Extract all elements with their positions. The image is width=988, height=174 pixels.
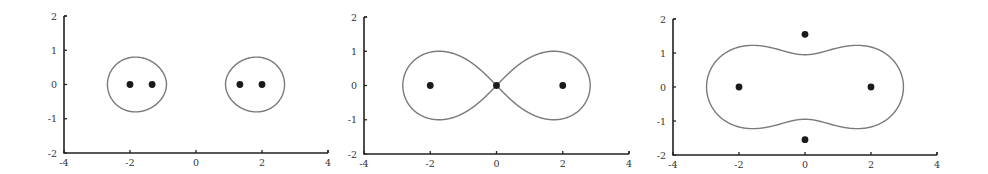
x-tick-label: 4 bbox=[934, 159, 940, 170]
x-tick-label: -2 bbox=[734, 159, 743, 170]
level-curve bbox=[107, 57, 284, 112]
y-tick-label: -1 bbox=[348, 114, 357, 125]
marker-point bbox=[559, 82, 566, 89]
x-tick-label: 0 bbox=[802, 159, 808, 170]
y-tick-label: 0 bbox=[660, 82, 666, 93]
x-tick-label: -4 bbox=[59, 157, 68, 168]
x-tick-label: 2 bbox=[560, 158, 566, 169]
x-tick-label: 0 bbox=[193, 157, 199, 168]
y-tick-label: 1 bbox=[660, 48, 666, 59]
marker-point bbox=[259, 81, 266, 88]
y-tick-label: 2 bbox=[660, 14, 666, 25]
axes-lines bbox=[673, 19, 937, 155]
y-tick-label: -2 bbox=[48, 148, 57, 159]
y-tick-label: -2 bbox=[348, 149, 357, 160]
marker-point bbox=[802, 136, 809, 143]
marker-point bbox=[236, 81, 243, 88]
marker-point bbox=[802, 31, 809, 38]
y-tick-label: 2 bbox=[51, 11, 57, 22]
marker-point bbox=[493, 82, 500, 89]
x-tick-label: 0 bbox=[493, 158, 499, 169]
axes-lines bbox=[64, 16, 328, 153]
x-tick-label: 4 bbox=[325, 157, 331, 168]
y-tick-label: 1 bbox=[51, 45, 57, 56]
x-tick-label: -4 bbox=[668, 159, 677, 170]
y-tick-label: -2 bbox=[657, 150, 666, 161]
y-tick-label: 0 bbox=[351, 80, 357, 91]
marker-point bbox=[427, 82, 434, 89]
y-tick-label: -1 bbox=[48, 113, 57, 124]
x-tick-label: -4 bbox=[359, 158, 368, 169]
marker-point bbox=[736, 84, 743, 91]
y-tick-label: 1 bbox=[351, 46, 357, 57]
panel-figure-eight: -4-2024-2-1012 bbox=[348, 12, 632, 170]
x-tick-label: 4 bbox=[626, 158, 632, 169]
figure-three-panels: -4-2024-2-1012 -4-2024-2-1012 -4-2024-2-… bbox=[0, 0, 988, 174]
marker-point bbox=[868, 84, 875, 91]
panel-two-ovals: -4-2024-2-1012 bbox=[48, 11, 331, 169]
y-tick-label: 0 bbox=[51, 79, 57, 90]
marker-point bbox=[149, 81, 156, 88]
y-tick-label: -1 bbox=[657, 116, 666, 127]
y-tick-label: 2 bbox=[351, 12, 357, 23]
marker-point bbox=[127, 81, 134, 88]
x-tick-label: 2 bbox=[259, 157, 265, 168]
x-tick-label: -2 bbox=[125, 157, 134, 168]
panel-peanut-curve: -4-2024-2-1012 bbox=[657, 14, 940, 171]
x-tick-label: 2 bbox=[868, 159, 874, 170]
x-tick-label: -2 bbox=[426, 158, 435, 169]
